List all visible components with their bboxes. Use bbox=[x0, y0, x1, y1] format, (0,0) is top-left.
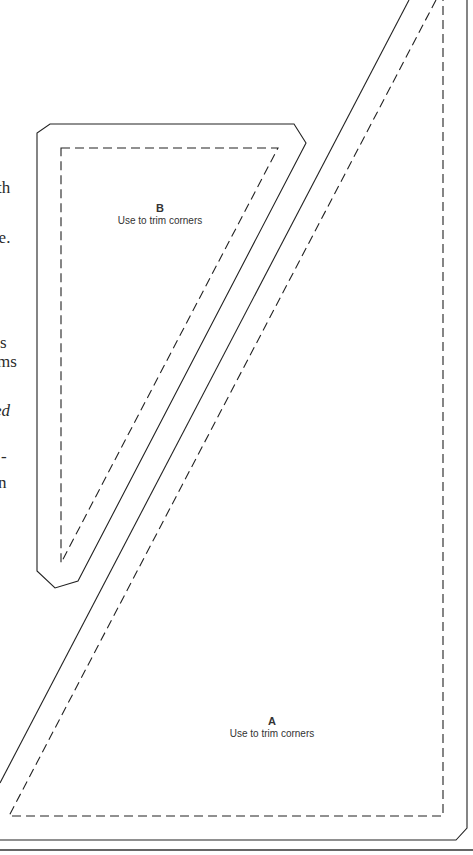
template-a-letter: A bbox=[212, 715, 332, 728]
template-a-cut-line-right bbox=[0, 0, 467, 840]
template-b-label: B Use to trim corners bbox=[100, 202, 220, 227]
pattern-page: th se. s ms ed - n B Use to trim corners… bbox=[0, 0, 473, 855]
template-a-label: A Use to trim corners bbox=[212, 715, 332, 740]
template-a-seam-line bbox=[9, 0, 443, 816]
template-a-note: Use to trim corners bbox=[212, 728, 332, 740]
template-b-letter: B bbox=[100, 202, 220, 215]
template-b-cut-line bbox=[37, 124, 306, 588]
template-b-note: Use to trim corners bbox=[100, 215, 220, 227]
